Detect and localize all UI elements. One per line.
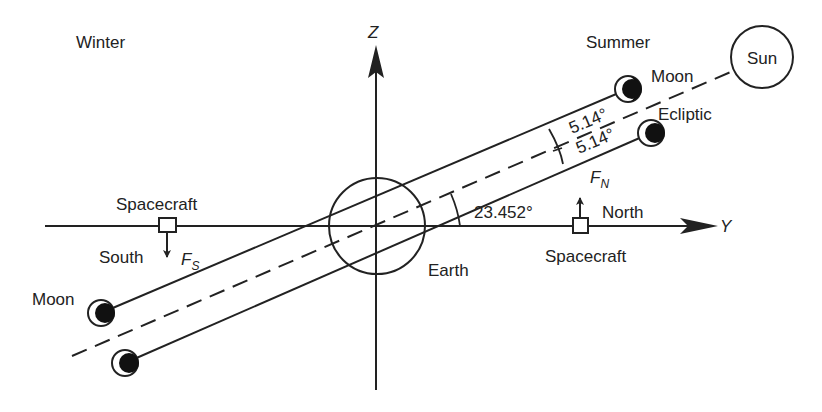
spacecraft-left-label: Spacecraft: [116, 195, 198, 214]
ecliptic-label: Ecliptic: [658, 105, 712, 124]
force-south-label: FS: [181, 250, 199, 273]
moon-icon-upper-right: [615, 76, 642, 102]
earth-label: Earth: [428, 261, 469, 280]
moon-label-lower: Moon: [32, 290, 75, 309]
moon-icon-lower-left: [112, 350, 139, 376]
winter-label: Winter: [76, 33, 125, 52]
obliquity-angle-label: 23.452°: [474, 203, 533, 222]
south-label: South: [99, 248, 143, 267]
moon-label-upper: Moon: [651, 67, 694, 86]
north-label: North: [602, 203, 644, 222]
spacecraft-right-label: Spacecraft: [545, 247, 627, 266]
obliquity-arc: [451, 194, 460, 226]
z-axis: [368, 45, 384, 390]
moon-icon-upper-left: [88, 300, 115, 326]
y-axis-label: Y: [720, 217, 733, 236]
summer-label: Summer: [586, 33, 651, 52]
sun-label: Sun: [747, 49, 777, 68]
z-axis-label: Z: [367, 23, 379, 42]
diagram-canvas: Winter Summer Z Y Sun Moon Moon Ecliptic…: [0, 0, 822, 412]
spacecraft-left: [159, 218, 176, 257]
spacecraft-right: [573, 198, 588, 233]
force-north-label: FN: [590, 168, 609, 191]
